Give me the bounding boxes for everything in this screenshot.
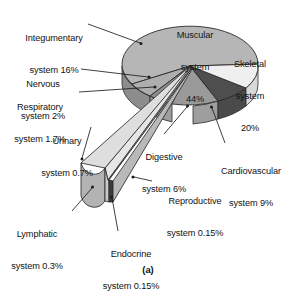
label-urinary: Urinary system 0.7% — [30, 115, 104, 200]
label-skeletal-line1: Skeletal — [220, 59, 280, 70]
label-lymphatic: Lymphatic system 0.3% — [1, 208, 73, 293]
label-cardiovascular: Cardiovascular system 9% — [208, 145, 294, 230]
label-lymphatic-line1: Lymphatic — [1, 229, 73, 240]
label-skeletal: Skeletal system 20% — [220, 38, 280, 155]
label-digestive-line1: Digestive — [126, 152, 202, 163]
label-urinary-line1: Urinary — [30, 136, 104, 147]
label-urinary-line2: system 0.7% — [30, 168, 104, 179]
leader-endocrine — [112, 198, 118, 231]
label-cardiovascular-line2: system 9% — [208, 198, 294, 209]
label-cardiovascular-line1: Cardiovascular — [208, 166, 294, 177]
label-endocrine-line2: system 0.15% — [88, 281, 174, 292]
label-skeletal-line3: 20% — [220, 123, 280, 134]
label-respiratory-line1: Respiratory — [3, 102, 77, 113]
label-digestive-line2: system 6% — [126, 184, 202, 195]
leader-dot-nervous — [148, 76, 151, 79]
figure-caption: (a) — [0, 264, 296, 275]
leader-dot-endocrine — [110, 196, 113, 199]
label-skeletal-line2: system — [220, 91, 280, 102]
label-integumentary-line1: Integumentary — [8, 33, 100, 44]
leader-dot-integumentary — [140, 42, 143, 45]
label-digestive: Digestive system 6% — [126, 131, 202, 216]
